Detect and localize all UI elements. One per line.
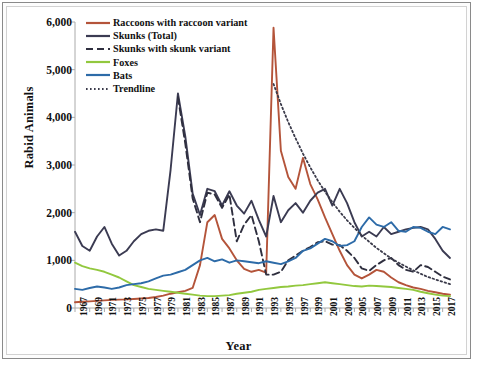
legend-item-4[interactable]: Bats: [86, 69, 247, 82]
x-tick-label: 2005: [358, 297, 368, 316]
x-tick-label: 2015: [432, 297, 442, 316]
x-tick-label: 1987: [226, 297, 236, 316]
legend-label: Skunks with skunk variant: [113, 42, 231, 55]
x-tick-label: 1971: [108, 297, 118, 316]
chart-legend: Raccoons with raccoon variantSkunks (Tot…: [86, 16, 247, 95]
legend-item-0[interactable]: Raccoons with raccoon variant: [86, 16, 247, 29]
legend-swatch-icon: [86, 44, 110, 54]
x-tick-label: 1981: [182, 297, 192, 316]
legend-label: Raccoons with raccoon variant: [113, 16, 247, 29]
x-tick-label: 1985: [211, 297, 221, 316]
x-tick-label: 1989: [241, 297, 251, 316]
x-tick-label: 2003: [344, 297, 354, 316]
x-tick-label: 2011: [403, 298, 413, 316]
x-tick-label: 2007: [373, 297, 383, 316]
x-axis-title: Year: [0, 339, 477, 354]
x-tick-label: 1969: [94, 297, 104, 316]
x-tick-label: 2009: [388, 297, 398, 316]
y-axis-title: Rabid Animals: [22, 73, 37, 183]
legend-swatch-icon: [86, 31, 110, 41]
x-tick-label: 2017: [447, 297, 457, 316]
x-tick-label: 1991: [255, 297, 265, 316]
legend-swatch-icon: [86, 18, 110, 28]
legend-swatch-icon: [86, 57, 110, 67]
x-tick-label: 1967: [79, 297, 89, 316]
x-tick-label: 1995: [285, 297, 295, 316]
x-tick-label: 1979: [167, 297, 177, 316]
x-tick-label: 1975: [138, 297, 148, 316]
x-tick-label: 1997: [300, 297, 310, 316]
x-tick-label: 1983: [197, 297, 207, 316]
x-tick-label: 1993: [270, 297, 280, 316]
legend-swatch-icon: [86, 84, 110, 94]
legend-label: Bats: [113, 69, 132, 82]
x-tick-label: 2001: [329, 297, 339, 316]
rabid-animals-line-chart: 01,0002,0003,0004,0005,0006,000 19671969…: [0, 0, 477, 365]
legend-item-3[interactable]: Foxes: [86, 56, 247, 69]
legend-label: Skunks (Total): [113, 29, 177, 42]
legend-label: Trendline: [113, 82, 155, 95]
x-tick-label: 1973: [123, 297, 133, 316]
x-tick-label: 1977: [153, 297, 163, 316]
legend-item-1[interactable]: Skunks (Total): [86, 29, 247, 42]
legend-label: Foxes: [113, 56, 138, 69]
x-tick-label: 1999: [314, 297, 324, 316]
x-tick-label: 2013: [417, 297, 427, 316]
legend-item-5[interactable]: Trendline: [86, 82, 247, 95]
legend-item-2[interactable]: Skunks with skunk variant: [86, 42, 247, 55]
legend-swatch-icon: [86, 70, 110, 80]
